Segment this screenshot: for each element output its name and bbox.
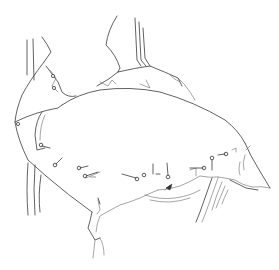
pin-icon: [52, 86, 55, 89]
drawing-canvas: [0, 0, 279, 270]
pin-icon: [166, 175, 170, 179]
fabric-seat: [46, 88, 270, 258]
pin-icon: [16, 122, 19, 125]
chair-right-legs: [196, 178, 258, 222]
pin-icon: [142, 173, 146, 177]
chair-left-post: [27, 37, 51, 215]
pin-icon: [210, 156, 214, 160]
fabric-left-flap: [15, 62, 76, 176]
chair-back-right: [97, 66, 195, 100]
chair-back-top: [106, 16, 150, 72]
pins: [16, 74, 236, 204]
chair-sketch: [0, 0, 279, 270]
pin-icon: [51, 74, 54, 77]
fabric-folds: [145, 146, 250, 202]
